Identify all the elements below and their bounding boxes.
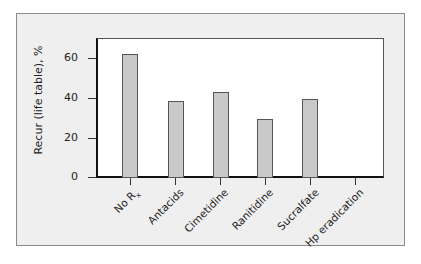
x-tick-sucralfate [310, 178, 311, 185]
y-tick-label-60: 60 [58, 51, 78, 64]
bar-antacids [168, 101, 184, 178]
bar-no-rx [122, 54, 138, 178]
bar-sucralfate [302, 99, 318, 178]
y-tick-label-0: 0 [58, 170, 78, 183]
y-tick-label-20: 20 [58, 131, 78, 144]
plot-area [96, 38, 384, 178]
x-tick-cimetidine [220, 178, 221, 185]
y-tick-20 [88, 138, 96, 139]
y-tick-40 [88, 98, 96, 99]
bar-ranitidine [257, 119, 273, 178]
bar-cimetidine [213, 92, 229, 178]
x-tick-hp-eradication [355, 178, 356, 185]
y-tick-label-40: 40 [58, 91, 78, 104]
y-axis-label: Recur (life table), % [32, 45, 45, 154]
x-tick-ranitidine [265, 178, 266, 185]
x-tick-no-rx [130, 178, 131, 185]
y-tick-0 [88, 177, 96, 178]
y-tick-60 [88, 58, 96, 59]
x-tick-antacids [175, 178, 176, 185]
